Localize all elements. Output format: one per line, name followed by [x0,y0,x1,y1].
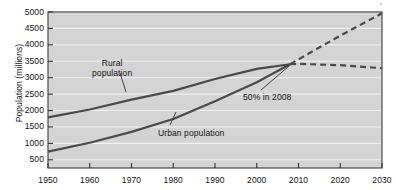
x-tick-label: 2030 [366,176,396,185]
rural-population-label-line2: population [92,68,132,78]
population-line-chart: 500100015002000250030003500400045005000 … [0,0,396,190]
x-tick-label: 1970 [116,176,148,185]
x-tick-label: 1960 [74,176,106,185]
x-tick-label: 2000 [241,176,273,185]
rural-population-label-line1: Rural [92,58,132,68]
x-tick-label: 1980 [157,176,189,185]
scan-artifact-speck [380,3,382,5]
x-tick-label: 2010 [283,176,315,185]
x-tick-label: 1990 [199,176,231,185]
rural-population-label: Rural population [92,58,132,78]
x-tick-label: 1950 [32,176,64,185]
x-tick-label: 2020 [324,176,356,185]
x-axis-tick-labels: 195019601970198019902000201020202030 [0,0,396,190]
y-axis-title: Population (millions) [14,28,24,138]
crossover-annotation: 50% in 2008 [243,92,291,102]
urban-population-label: Urban population [158,128,224,138]
